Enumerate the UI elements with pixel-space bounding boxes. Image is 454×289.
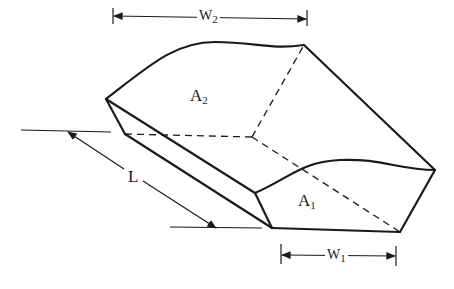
width-upstream-label: W2 bbox=[197, 9, 220, 25]
length-symbol: L bbox=[128, 167, 138, 186]
area-upstream-label: A2 bbox=[190, 87, 208, 106]
channel-long-edges bbox=[106, 45, 435, 228]
area-downstream-label: A1 bbox=[298, 192, 316, 211]
width-downstream-label: W1 bbox=[325, 248, 348, 264]
length-dimension bbox=[68, 132, 216, 228]
hidden-edges bbox=[125, 45, 400, 232]
area-upstream-symbol: A bbox=[190, 86, 202, 105]
area-downstream-subscript: 1 bbox=[310, 199, 316, 211]
area-upstream-subscript: 2 bbox=[202, 94, 208, 106]
channel-diagram bbox=[0, 0, 454, 289]
width-upstream-subscript: 2 bbox=[212, 13, 218, 25]
width-downstream-symbol: W bbox=[327, 247, 340, 262]
width-upstream-symbol: W bbox=[199, 8, 212, 23]
downstream-section bbox=[255, 160, 435, 232]
width-downstream-subscript: 1 bbox=[340, 252, 346, 264]
area-downstream-symbol: A bbox=[298, 191, 310, 210]
length-label: L bbox=[126, 168, 140, 185]
